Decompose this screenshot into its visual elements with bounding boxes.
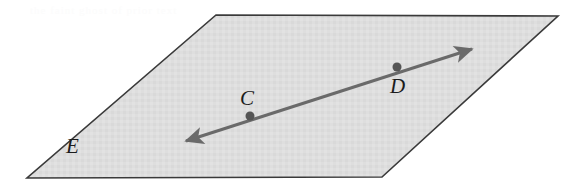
diagram-canvas <box>0 0 571 182</box>
point-c-dot <box>246 112 255 121</box>
point-c-label: C <box>240 88 254 109</box>
point-d-dot <box>393 63 402 72</box>
geometry-figure: the faint ghost of prior text C D E <box>0 0 571 182</box>
plane-e-label: E <box>66 136 79 157</box>
point-d-label: D <box>390 76 405 97</box>
plane-polygon <box>27 15 558 178</box>
